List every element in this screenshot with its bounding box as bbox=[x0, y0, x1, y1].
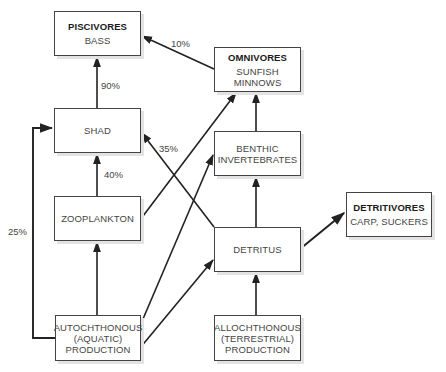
edge-label-shad-piscivores: 90% bbox=[101, 80, 120, 91]
edge-label-autochthonous-shad: 25% bbox=[8, 226, 27, 237]
node-text: ALLOCHTHONOUS bbox=[214, 322, 301, 333]
node-detritivores: DETRITIVORES CARP, SUCKERS bbox=[346, 192, 432, 237]
node-text: BASS bbox=[85, 35, 111, 46]
node-text: BENTHIC bbox=[236, 143, 278, 154]
node-text: (AQUATIC) bbox=[74, 333, 123, 344]
node-omnivores: OMNIVORES SUNFISH MINNOWS bbox=[214, 47, 301, 92]
arrow-detritus-to-detritivores bbox=[300, 213, 344, 249]
node-detritus: DETRITUS bbox=[214, 227, 301, 272]
arrow-autochthonous-to-detritus bbox=[140, 260, 213, 348]
edge-label-detritus-shad: 35% bbox=[159, 143, 178, 154]
node-text: AUTOCHTHONOUS bbox=[54, 322, 143, 333]
node-text: MINNOWS bbox=[234, 77, 282, 88]
arrow-autochthonous-to-shad bbox=[33, 128, 55, 338]
node-text: PRODUCTION bbox=[225, 344, 290, 355]
node-shad: SHAD bbox=[54, 108, 141, 153]
node-zooplankton: ZOOPLANKTON bbox=[54, 196, 141, 241]
node-text: ZOOPLANKTON bbox=[61, 213, 134, 224]
node-title: DETRITIVORES bbox=[353, 202, 424, 213]
node-text: (TERRESTRIAL) bbox=[221, 333, 294, 344]
node-text: SHAD bbox=[84, 125, 111, 136]
node-allochthonous-production: ALLOCHTHONOUS (TERRESTRIAL) PRODUCTION bbox=[214, 315, 301, 361]
node-title: OMNIVORES bbox=[228, 52, 287, 63]
edge-label-zooplankton-shad: 40% bbox=[104, 169, 123, 180]
node-text: INVERTEBRATES bbox=[218, 154, 298, 165]
node-text: PRODUCTION bbox=[66, 344, 131, 355]
node-title: PISCIVORES bbox=[68, 21, 127, 32]
node-benthic-invertebrates: BENTHIC INVERTEBRATES bbox=[214, 131, 301, 176]
node-autochthonous-production: AUTOCHTHONOUS (AQUATIC) PRODUCTION bbox=[55, 315, 141, 361]
node-text: DETRITUS bbox=[233, 244, 281, 255]
edge-label-omnivores-piscivores: 10% bbox=[171, 38, 190, 49]
arrow-autochthonous-to-benthic bbox=[140, 155, 213, 326]
node-text: CARP, SUCKERS bbox=[350, 216, 428, 227]
node-piscivores: PISCIVORES BASS bbox=[54, 11, 141, 56]
node-text: SUNFISH bbox=[236, 66, 278, 77]
